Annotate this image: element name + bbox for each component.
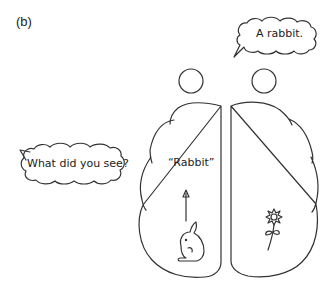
left-eye-icon	[179, 69, 203, 93]
left-hemisphere-word: “Rabbit”	[168, 156, 215, 169]
left-hemisphere	[139, 103, 221, 278]
speech-text-left: What did you see?	[27, 157, 129, 170]
flower-icon	[266, 209, 282, 250]
rabbit-icon	[178, 222, 204, 261]
split-brain-figure: (b) A rabbit. What did you see? “Rabbit”	[0, 0, 334, 284]
diagram-canvas	[0, 0, 334, 284]
panel-label: (b)	[16, 14, 32, 29]
right-hemisphere	[231, 102, 318, 277]
right-eye-icon	[252, 69, 276, 93]
speech-text-right: A rabbit.	[256, 27, 303, 40]
